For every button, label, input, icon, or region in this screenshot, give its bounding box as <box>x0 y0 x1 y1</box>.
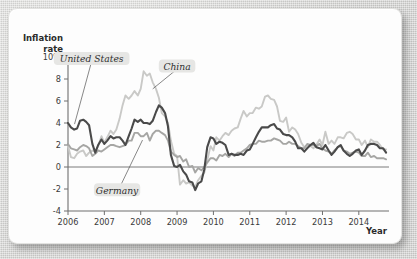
x-tick-label: 2012 <box>276 217 297 227</box>
x-axis-ticks: 200620072008200920102011201220132014 <box>58 211 370 227</box>
annotation-label-china: China <box>163 61 190 72</box>
y-tick-label: 0 <box>56 162 61 172</box>
chart-card: Inflation rate -4-20246810% 200620072008… <box>8 8 402 244</box>
y-axis-title-line1: Inflation <box>23 33 63 43</box>
y-tick-label: 6 <box>56 96 61 106</box>
annotation-label-germany: Germany <box>96 185 139 196</box>
data-series-group <box>68 71 386 190</box>
y-tick-label: 2 <box>56 140 61 150</box>
x-tick-label: 2009 <box>167 217 188 227</box>
x-tick-label: 2011 <box>239 217 260 227</box>
x-tick-label: 2010 <box>203 217 224 227</box>
series-annotations: United StatesChinaGermany <box>54 52 196 196</box>
y-axis-ticks: -4-20246810% <box>43 52 68 216</box>
y-tick-label: 8 <box>56 74 61 84</box>
y-tick-label: -2 <box>53 184 61 194</box>
series-line-china <box>68 71 386 187</box>
x-tick-label: 2013 <box>312 217 333 227</box>
series-line-united-states <box>68 105 386 190</box>
annotation-leader-line <box>75 61 92 124</box>
x-tick-label: 2006 <box>58 217 79 227</box>
annotation-label-united-states: United States <box>60 53 124 64</box>
chart-plot-area: Inflation rate -4-20246810% 200620072008… <box>9 9 401 243</box>
y-tick-label: 4 <box>56 118 61 128</box>
x-tick-label: 2008 <box>130 217 151 227</box>
inflation-rate-line-chart: Inflation rate -4-20246810% 200620072008… <box>9 9 401 243</box>
x-tick-label: 2007 <box>94 217 115 227</box>
x-axis-title: Year <box>365 226 388 236</box>
y-tick-label: -4 <box>53 206 61 216</box>
y-axis-title: Inflation rate <box>23 33 63 54</box>
